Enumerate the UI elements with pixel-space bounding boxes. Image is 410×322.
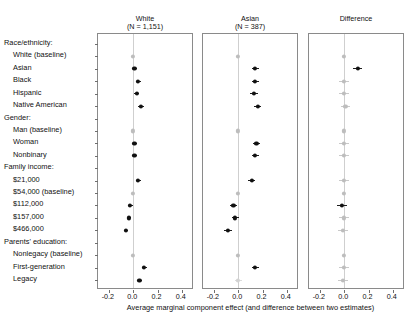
y-axis-tick xyxy=(95,218,98,219)
panel-title-sub: (N = 1,151) xyxy=(97,23,193,31)
estimate-dot xyxy=(342,54,346,58)
estimate-dot xyxy=(128,203,132,207)
estimate-dot xyxy=(342,191,346,195)
estimate-dot xyxy=(136,79,140,83)
x-axis-tick-label: -0.2 xyxy=(313,293,325,301)
coefficient-plot-figure: White (N = 1,151) Asian (N = 387) Differ… xyxy=(0,0,410,322)
panel-asian xyxy=(202,33,298,289)
panel-title-difference: Difference xyxy=(308,15,404,23)
x-axis-tick-label: 0.0 xyxy=(127,293,137,301)
panel-white xyxy=(97,33,193,289)
y-axis-tick xyxy=(95,131,98,132)
estimate-dot xyxy=(233,216,237,220)
row-label-man-baseline: Man (baseline) xyxy=(13,126,62,134)
estimate-dot xyxy=(342,129,346,133)
estimate-dot xyxy=(253,154,257,158)
estimate-dot xyxy=(236,253,240,257)
zero-reference-line xyxy=(133,34,134,288)
x-axis-tick-label: -0.2 xyxy=(207,293,219,301)
estimate-dot xyxy=(138,104,142,108)
estimate-dot xyxy=(131,54,135,58)
row-label-nonlegacy-baseline: Nonlegacy (baseline) xyxy=(13,250,82,258)
estimate-dot xyxy=(236,54,240,58)
estimate-dot xyxy=(236,129,240,133)
y-axis-tick xyxy=(95,181,98,182)
y-axis-tick xyxy=(95,193,98,194)
estimate-dot xyxy=(132,141,136,145)
estimate-dot xyxy=(142,266,146,270)
estimate-dot xyxy=(231,203,235,207)
row-label-hispanic: Hispanic xyxy=(13,89,41,97)
y-axis-tick xyxy=(95,168,98,169)
x-axis-tick-label: 0.4 xyxy=(176,293,186,301)
y-axis-tick xyxy=(95,44,98,45)
estimate-dot xyxy=(253,266,257,270)
row-label-112-000: $112,000 xyxy=(13,200,43,208)
y-axis-tick xyxy=(95,106,98,107)
row-label-nonbinary: Nonbinary xyxy=(13,151,47,159)
row-label-white-baseline: White (baseline) xyxy=(13,51,66,59)
y-axis-tick xyxy=(95,56,98,57)
estimate-dot xyxy=(250,179,254,183)
estimate-dot xyxy=(136,179,140,183)
y-axis-tick xyxy=(95,255,98,256)
estimate-dot xyxy=(252,92,256,96)
row-label-parents-education: Parents' education: xyxy=(4,238,67,246)
y-axis-tick xyxy=(95,94,98,95)
zero-reference-line xyxy=(344,34,345,288)
estimate-dot xyxy=(342,266,346,270)
row-label-21-000: $21,000 xyxy=(13,176,40,184)
estimate-dot xyxy=(253,67,257,71)
row-label-first-generation: First-generation xyxy=(13,263,65,271)
estimate-dot xyxy=(236,278,240,282)
x-axis-tick-label: 0.2 xyxy=(152,293,162,301)
y-axis-tick xyxy=(95,205,98,206)
panel-title-sub: (N = 387) xyxy=(202,23,298,31)
estimate-dot xyxy=(342,154,346,158)
estimate-dot xyxy=(137,278,141,282)
row-label-column: Race/ethnicity:White (baseline)AsianBlac… xyxy=(0,0,96,322)
row-label-race-ethnicity: Race/ethnicity: xyxy=(4,39,52,47)
estimate-dot xyxy=(124,228,128,232)
y-axis-tick xyxy=(95,81,98,82)
row-label-466-000: $466,000 xyxy=(13,225,44,233)
x-axis-tick-label: 0.4 xyxy=(281,293,291,301)
y-axis-tick xyxy=(95,119,98,120)
x-axis-tick-label: 0.0 xyxy=(232,293,242,301)
estimate-dot xyxy=(343,104,347,108)
zero-reference-line xyxy=(238,34,239,288)
y-axis-tick xyxy=(95,156,98,157)
panel-title-main: Difference xyxy=(308,15,404,23)
estimate-dot xyxy=(342,216,346,220)
row-label-157-000: $157,000 xyxy=(13,213,44,221)
row-label-family-income: Family income: xyxy=(4,163,54,171)
x-axis-caption: Average marginal component effect (and d… xyxy=(97,303,404,312)
row-label-gender: Gender: xyxy=(4,114,31,122)
estimate-dot xyxy=(254,141,258,145)
panel-title-white: White (N = 1,151) xyxy=(97,15,193,32)
row-label-asian: Asian xyxy=(13,64,32,72)
x-axis-tick-label: 0.0 xyxy=(338,293,348,301)
x-axis-tick-label: -0.2 xyxy=(102,293,114,301)
x-axis-tick-label: 0.2 xyxy=(363,293,373,301)
estimate-dot xyxy=(342,179,346,183)
estimate-dot xyxy=(342,253,346,257)
estimate-dot xyxy=(356,67,360,71)
y-axis-tick xyxy=(95,143,98,144)
estimate-dot xyxy=(253,79,257,83)
panel-difference xyxy=(308,33,404,289)
estimate-dot xyxy=(135,92,139,96)
estimate-dot xyxy=(131,191,135,195)
y-axis-tick xyxy=(95,268,98,269)
row-label-native-american: Native American xyxy=(13,101,67,109)
estimate-dot xyxy=(127,216,131,220)
estimate-dot xyxy=(226,228,230,232)
panel-title-asian: Asian (N = 387) xyxy=(202,15,298,32)
estimate-dot xyxy=(342,141,346,145)
y-axis-tick xyxy=(95,230,98,231)
y-axis-tick xyxy=(95,280,98,281)
y-axis-tick xyxy=(95,243,98,244)
estimate-dot xyxy=(256,104,260,108)
estimate-dot xyxy=(236,191,240,195)
row-label-legacy: Legacy xyxy=(13,275,37,283)
